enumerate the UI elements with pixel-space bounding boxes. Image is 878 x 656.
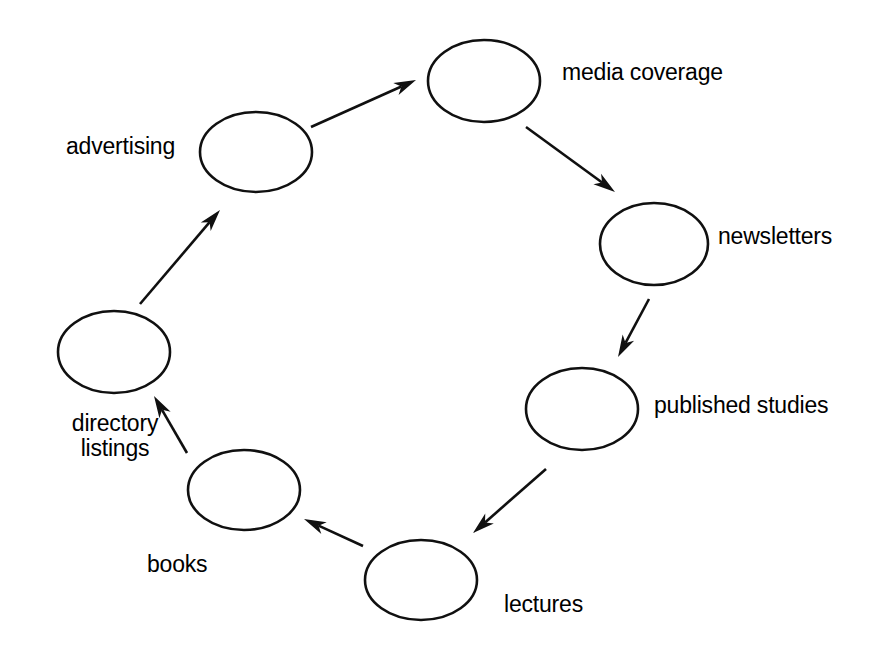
edge-arrowhead — [618, 335, 634, 357]
edge-line — [319, 526, 363, 546]
node-ellipse-directory-listings[interactable] — [58, 311, 170, 393]
edge-line — [140, 222, 210, 304]
edge-arrowhead — [593, 174, 615, 192]
edge-published-studies-to-lectures — [473, 469, 546, 533]
edge-newsletters-to-published-studies — [618, 299, 649, 357]
node-ellipse-lectures[interactable] — [365, 540, 477, 620]
node-label-published-studies: published studies — [654, 393, 828, 418]
edge-directory-listings-to-advertising — [140, 210, 220, 304]
edge-advertising-to-media-coverage — [311, 80, 416, 127]
node-label-lectures: lectures — [504, 592, 583, 617]
edge-lectures-to-books — [304, 519, 363, 546]
node-ellipse-media-coverage[interactable] — [428, 40, 540, 122]
node-ellipse-published-studies[interactable] — [526, 368, 638, 450]
node-label-books: books — [147, 552, 207, 577]
node-label-directory-listings: directory listings — [35, 411, 195, 461]
node-ellipse-books[interactable] — [188, 450, 300, 530]
node-label-media-coverage: media coverage — [562, 60, 723, 85]
edge-line — [311, 87, 401, 127]
cycle-diagram-canvas: media coveragenewsletterspublished studi… — [0, 0, 878, 656]
node-ellipse-newsletters[interactable] — [600, 203, 708, 285]
nodes-group — [58, 40, 708, 620]
edge-line — [526, 127, 602, 183]
node-ellipse-advertising[interactable] — [200, 112, 312, 192]
edge-media-coverage-to-newsletters — [526, 127, 615, 192]
node-label-newsletters: newsletters — [718, 224, 832, 249]
node-label-advertising: advertising — [66, 134, 175, 159]
diagram-svg-layer — [0, 0, 878, 656]
edge-line — [485, 469, 546, 522]
edge-line — [626, 299, 649, 343]
